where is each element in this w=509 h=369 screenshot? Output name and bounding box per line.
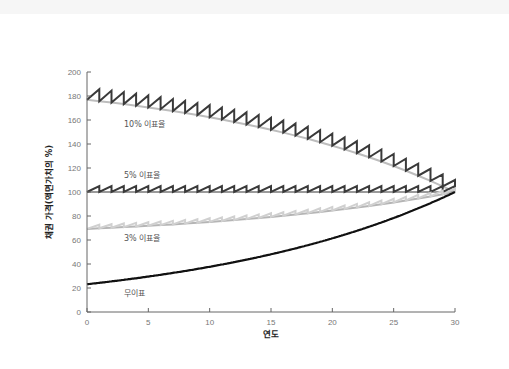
series-3pct-sawtooth <box>87 188 455 229</box>
label-5pct: 5% 이표율 <box>124 170 160 180</box>
x-tick-label: 10 <box>205 318 214 327</box>
x-tick-label: 20 <box>328 318 337 327</box>
label-zero-coupon: 무이표 <box>124 288 145 298</box>
y-tick-label: 20 <box>72 284 81 293</box>
y-tick-label: 40 <box>72 260 81 269</box>
y-tick-label: 100 <box>68 188 82 197</box>
y-axis-label: 채권 가격(액면가치의 %) <box>44 145 54 239</box>
y-tick-label: 60 <box>72 236 81 245</box>
y-tick-label: 140 <box>68 140 82 149</box>
y-tick-label: 0 <box>77 308 82 317</box>
y-tick-label: 80 <box>72 212 81 221</box>
x-tick-label: 5 <box>146 318 151 327</box>
bond-price-chart: 020406080100120140160180200051015202530 … <box>0 0 509 369</box>
label-10pct: 10% 이표율 <box>124 119 165 129</box>
x-axis-label: 연도 <box>263 329 279 339</box>
y-tick-label: 180 <box>68 92 82 101</box>
x-tick-label: 30 <box>451 318 460 327</box>
y-tick-label: 200 <box>68 68 82 77</box>
series-layer <box>87 89 455 284</box>
y-tick-label: 160 <box>68 116 82 125</box>
x-tick-label: 25 <box>389 318 398 327</box>
y-tick-label: 120 <box>68 164 82 173</box>
x-tick-label: 0 <box>85 318 90 327</box>
x-tick-label: 15 <box>267 318 276 327</box>
label-3pct: 3% 이표율 <box>124 233 160 243</box>
